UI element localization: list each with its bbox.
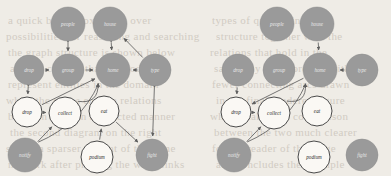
graph-node[interactable]: drop [221, 97, 251, 127]
edge-layer [28, 38, 345, 142]
graph-node[interactable]: notify [8, 138, 42, 172]
graph-edge [247, 127, 261, 142]
graph-node[interactable]: podium [298, 141, 330, 173]
graph-node[interactable]: drop [12, 97, 42, 127]
graph-node-label: group [273, 67, 286, 73]
graph-node[interactable]: fight [136, 139, 168, 171]
graph-node-label: eat [314, 108, 321, 114]
graph-node-label: drop [24, 67, 34, 73]
graph-node-label: type [151, 67, 160, 73]
graph-node[interactable]: podium [81, 141, 113, 173]
graph-edge [124, 38, 143, 57]
graph-node[interactable]: type [346, 54, 378, 86]
graph-node-label: eat [101, 108, 108, 114]
graph-node-label: fight [357, 152, 367, 158]
figure-canvas: a quick brown fox jumps overpossibilitie… [0, 0, 391, 176]
graph-node-label: notify [228, 152, 241, 158]
graph-node[interactable]: house [93, 7, 127, 41]
graph-node-label: type [358, 67, 367, 73]
graph-node-label: drop [231, 109, 241, 115]
graph-node-label: people [60, 21, 76, 27]
graph-node-label: house [104, 21, 117, 27]
graph-node[interactable]: group [263, 54, 295, 86]
graph-node[interactable]: drop [222, 54, 254, 86]
graph-node-label: house [311, 21, 324, 27]
graph-node[interactable]: home [96, 53, 130, 87]
graph-node-label: drop [233, 67, 243, 73]
graph-edge [287, 84, 306, 102]
graph-edge [116, 122, 138, 142]
graph-node-label: people [269, 21, 285, 27]
graph-node[interactable]: type [139, 54, 171, 86]
graph-node-label: home [314, 67, 326, 73]
graph-node[interactable]: eat [302, 96, 332, 126]
graph-node[interactable]: group [52, 54, 84, 86]
graph-node[interactable]: fight [346, 139, 378, 171]
graph-node-label: fight [147, 152, 157, 158]
graph-node-label: collect [267, 110, 281, 116]
graph-edge [153, 87, 155, 136]
node-layer: peoplehousedropgrouphometypedropcollecte… [8, 7, 378, 173]
graph-node[interactable]: drop [14, 55, 44, 85]
graph-node[interactable]: home [303, 53, 337, 87]
graph-edge [100, 129, 102, 140]
graph-node[interactable]: house [300, 7, 334, 41]
graph-node[interactable]: notify [217, 138, 251, 172]
graph-node[interactable]: collect [258, 97, 290, 129]
graph-node[interactable]: people [260, 7, 294, 41]
graph-node-label: collect [58, 110, 72, 116]
graph-node[interactable]: collect [49, 97, 81, 129]
graph-node-label: podium [88, 154, 105, 160]
graph-node-label: group [62, 67, 75, 73]
graph-node-label: home [107, 67, 119, 73]
graph-node-label: drop [22, 109, 32, 115]
graph-node[interactable]: people [51, 7, 85, 41]
graph-node-label: podium [305, 154, 322, 160]
graph-diagram-pair: peoplehousedropgrouphometypedropcollecte… [0, 0, 391, 176]
graph-node[interactable]: eat [89, 96, 119, 126]
graph-node-label: notify [19, 152, 32, 158]
